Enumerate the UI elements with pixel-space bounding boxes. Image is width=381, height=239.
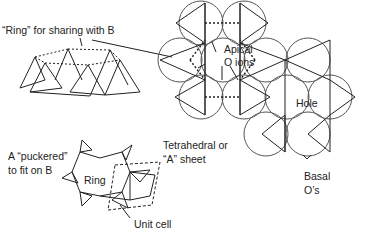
label-basal-1: Basal [304,170,330,183]
oxygen-circles [158,1,352,156]
tetrahedra-ring-perspective [20,49,140,96]
label-basal-2: O’s [304,184,320,197]
label-puckered-1: A “puckered” [8,150,68,163]
label-ring-sharing: “Ring” for sharing with B [2,24,115,37]
tetrahedra-lines [160,3,355,152]
label-hole: Hole [296,97,318,110]
diagram-canvas: “Ring” for sharing with B Apical O ions … [0,0,381,239]
leader-line [92,40,172,57]
label-tetrahedral-1: Tetrahedral or [163,139,228,152]
label-unit-cell: Unit cell [134,218,171,231]
label-puckered-2: to fit on B [8,164,52,177]
label-ring: Ring [84,174,106,187]
label-apical-2: O ions [224,56,254,69]
label-apical-1: Apical [224,43,253,56]
label-tetrahedral-2: “A” sheet [163,153,206,166]
puckered-ring [62,140,160,218]
